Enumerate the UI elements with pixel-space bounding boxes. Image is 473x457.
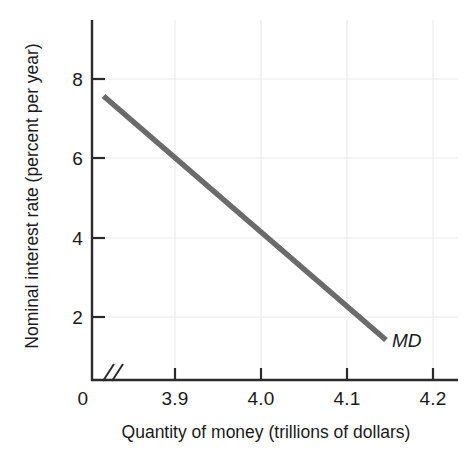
y-tick-label-4: 4 (72, 228, 83, 249)
x-tick-label-4-2: 4.2 (419, 388, 446, 409)
y-tick-label-8: 8 (72, 69, 83, 90)
y-axis-title: Nominal interest rate (percent per year) (22, 43, 42, 348)
x-axis-title: Quantity of money (trillions of dollars) (122, 422, 411, 442)
curve-label-md: MD (392, 330, 422, 351)
y-tick-label-2: 2 (72, 307, 83, 328)
x-tick-label-4-0: 4.0 (247, 388, 274, 409)
origin-label: 0 (78, 388, 89, 409)
chart-canvas: 8 6 4 2 0 3.9 4.0 4.1 4.2 MD Quantity of… (0, 0, 473, 457)
x-tick-label-4-1: 4.1 (333, 388, 360, 409)
money-demand-chart: 8 6 4 2 0 3.9 4.0 4.1 4.2 MD Quantity of… (0, 0, 473, 457)
chart-background (0, 0, 473, 457)
x-tick-label-3-9: 3.9 (161, 388, 188, 409)
y-tick-label-6: 6 (72, 148, 83, 169)
